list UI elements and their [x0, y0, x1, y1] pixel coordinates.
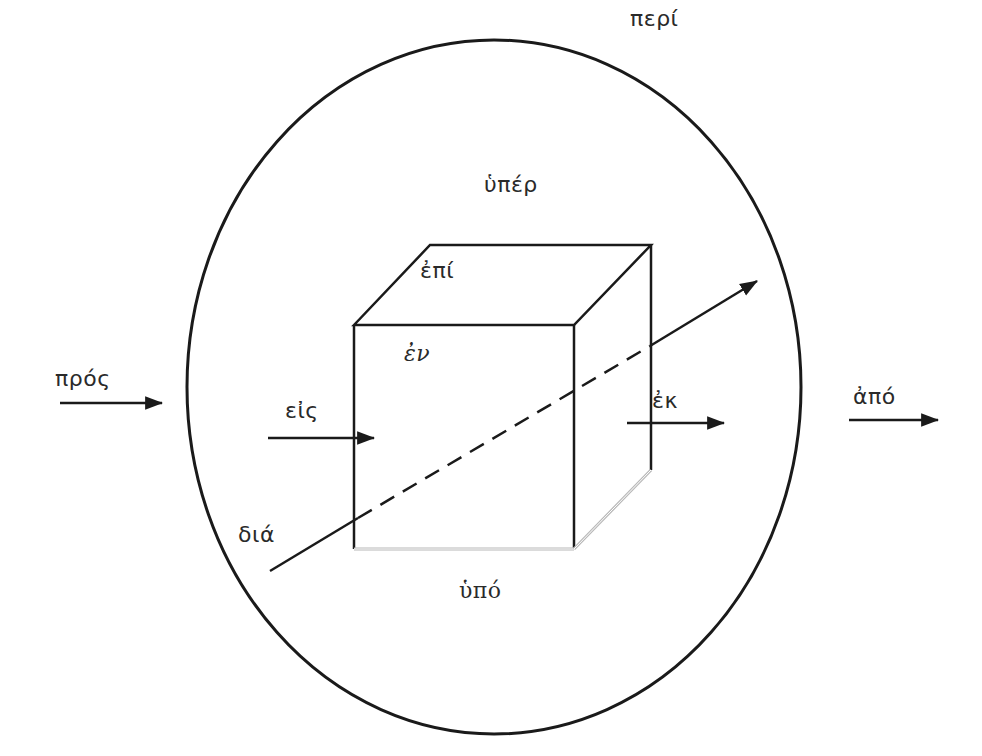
label-dia: διά — [238, 524, 275, 546]
surrounding-circle — [187, 40, 801, 734]
dia-line-hidden — [358, 346, 650, 518]
cube-top-face — [354, 245, 651, 325]
cube-bottom-right-highlight — [574, 470, 651, 549]
label-hyper: ὑπέρ — [484, 174, 538, 196]
label-pros: πρός — [55, 368, 111, 390]
prepositions-diagram — [0, 0, 982, 756]
label-ek: ἐκ — [652, 390, 678, 412]
label-peri: περί — [630, 8, 679, 30]
label-hypo: ὑπό — [459, 580, 502, 602]
label-eis: εἰς — [285, 400, 319, 422]
label-en: ἐν — [404, 343, 430, 365]
dia-line-exit — [650, 281, 757, 346]
label-epi: ἐπί — [420, 260, 454, 282]
cube — [354, 245, 651, 549]
label-apo: ἀπό — [853, 386, 896, 408]
dia-line-entry — [270, 518, 358, 571]
